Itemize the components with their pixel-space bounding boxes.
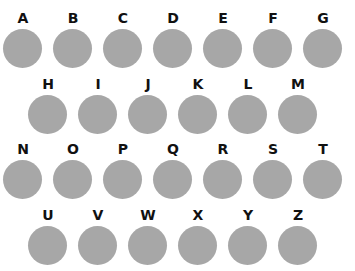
circle-icon[interactable]: [3, 29, 42, 68]
letter-label: U: [28, 207, 68, 223]
circle-icon[interactable]: [178, 226, 217, 265]
letter-label: D: [153, 10, 193, 26]
circle-icon[interactable]: [228, 226, 267, 265]
letter-item-j[interactable]: J: [128, 76, 168, 134]
letter-label: L: [228, 76, 268, 92]
letter-item-e[interactable]: E: [203, 10, 243, 68]
circle-icon[interactable]: [253, 29, 292, 68]
circle-icon[interactable]: [3, 160, 42, 199]
letter-label: M: [278, 76, 318, 92]
circle-icon[interactable]: [278, 226, 317, 265]
letter-label: F: [253, 10, 293, 26]
letter-label: O: [53, 141, 93, 157]
circle-icon[interactable]: [53, 160, 92, 199]
letter-label: C: [103, 10, 143, 26]
circle-icon[interactable]: [128, 226, 167, 265]
circle-icon[interactable]: [228, 95, 267, 134]
letter-label: S: [253, 141, 293, 157]
letter-item-t[interactable]: T: [303, 141, 343, 199]
letter-label: E: [203, 10, 243, 26]
letter-label: K: [178, 76, 218, 92]
letter-item-c[interactable]: C: [103, 10, 143, 68]
letter-item-q[interactable]: Q: [153, 141, 193, 199]
letter-label: Q: [153, 141, 193, 157]
circle-icon[interactable]: [178, 95, 217, 134]
circle-icon[interactable]: [303, 29, 342, 68]
circle-icon[interactable]: [153, 160, 192, 199]
letter-label: T: [303, 141, 343, 157]
letter-label: X: [178, 207, 218, 223]
letter-item-l[interactable]: L: [228, 76, 268, 134]
letter-item-g[interactable]: G: [303, 10, 343, 68]
letter-item-p[interactable]: P: [103, 141, 143, 199]
circle-icon[interactable]: [203, 160, 242, 199]
circle-icon[interactable]: [203, 29, 242, 68]
circle-icon[interactable]: [28, 95, 67, 134]
letter-label: J: [128, 76, 168, 92]
letter-item-z[interactable]: Z: [278, 207, 318, 265]
letter-label: N: [3, 141, 43, 157]
letter-label: Y: [228, 207, 268, 223]
letter-item-h[interactable]: H: [28, 76, 68, 134]
letter-label: P: [103, 141, 143, 157]
letter-label: W: [128, 207, 168, 223]
letter-item-s[interactable]: S: [253, 141, 293, 199]
circle-icon[interactable]: [28, 226, 67, 265]
letter-label: Z: [278, 207, 318, 223]
letter-item-n[interactable]: N: [3, 141, 43, 199]
circle-icon[interactable]: [153, 29, 192, 68]
letter-item-w[interactable]: W: [128, 207, 168, 265]
circle-icon[interactable]: [303, 160, 342, 199]
letter-item-u[interactable]: U: [28, 207, 68, 265]
letter-item-x[interactable]: X: [178, 207, 218, 265]
letter-item-r[interactable]: R: [203, 141, 243, 199]
letter-label: I: [78, 76, 118, 92]
circle-icon[interactable]: [128, 95, 167, 134]
letter-label: G: [303, 10, 343, 26]
circle-icon[interactable]: [53, 29, 92, 68]
letter-item-d[interactable]: D: [153, 10, 193, 68]
letter-item-k[interactable]: K: [178, 76, 218, 134]
letter-item-y[interactable]: Y: [228, 207, 268, 265]
letter-item-a[interactable]: A: [3, 10, 43, 68]
letter-label: B: [53, 10, 93, 26]
circle-icon[interactable]: [103, 160, 142, 199]
letter-label: H: [28, 76, 68, 92]
letter-label: V: [78, 207, 118, 223]
letter-label: R: [203, 141, 243, 157]
circle-icon[interactable]: [253, 160, 292, 199]
letter-item-v[interactable]: V: [78, 207, 118, 265]
letter-item-m[interactable]: M: [278, 76, 318, 134]
letter-label: A: [3, 10, 43, 26]
letter-item-o[interactable]: O: [53, 141, 93, 199]
circle-icon[interactable]: [78, 95, 117, 134]
letter-item-i[interactable]: I: [78, 76, 118, 134]
letter-item-b[interactable]: B: [53, 10, 93, 68]
circle-icon[interactable]: [78, 226, 117, 265]
circle-icon[interactable]: [278, 95, 317, 134]
circle-icon[interactable]: [103, 29, 142, 68]
letter-item-f[interactable]: F: [253, 10, 293, 68]
